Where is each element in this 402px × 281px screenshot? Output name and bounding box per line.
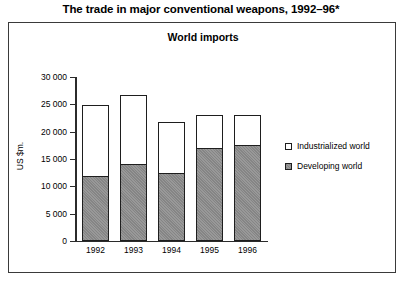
bar-segment-developing — [196, 148, 223, 241]
chart-legend: Industrialized worldDeveloping world — [285, 142, 370, 182]
y-tick-label: 0 — [11, 237, 67, 246]
bar-stack — [120, 95, 147, 241]
figure-title: The trade in major conventional weapons,… — [0, 3, 402, 15]
bar-segment-developing — [82, 176, 109, 241]
y-tick-mark — [70, 186, 76, 187]
legend-label: Developing world — [297, 162, 362, 171]
bar-segment-industrialized — [158, 122, 185, 172]
y-tick-mark — [70, 241, 76, 242]
y-tick-mark — [70, 132, 76, 133]
gray-square-icon — [285, 163, 292, 170]
bar-segment-developing — [234, 145, 261, 240]
chart-frame: World imports US $m. 05 00010 00015 0002… — [8, 22, 396, 273]
legend-item: Industrialized world — [285, 142, 370, 151]
bar-segment-developing — [120, 164, 147, 241]
x-tick-label: 1996 — [225, 245, 271, 255]
y-tick-label: 20 000 — [11, 128, 67, 137]
bar-segment-industrialized — [234, 115, 261, 146]
bar-segment-industrialized — [120, 95, 147, 164]
white-square-icon — [285, 143, 292, 150]
bar-stack — [158, 122, 185, 240]
bar-stack — [196, 115, 223, 241]
y-tick-mark — [70, 159, 76, 160]
legend-label: Industrialized world — [297, 142, 370, 151]
bar-stack — [234, 115, 261, 241]
bar-segment-industrialized — [196, 115, 223, 148]
y-tick-label: 25 000 — [11, 100, 67, 109]
y-tick-label: 15 000 — [11, 155, 67, 164]
bar-segment-industrialized — [82, 105, 109, 176]
bar-stack — [82, 105, 109, 241]
legend-item: Developing world — [285, 162, 370, 171]
y-tick-mark — [70, 214, 76, 215]
x-axis-line — [75, 241, 268, 243]
y-tick-mark — [70, 104, 76, 105]
bar-segment-developing — [158, 173, 185, 241]
y-tick-label: 10 000 — [11, 182, 67, 191]
y-tick-mark — [70, 77, 76, 78]
y-tick-label: 30 000 — [11, 73, 67, 82]
y-tick-label: 5 000 — [11, 210, 67, 219]
